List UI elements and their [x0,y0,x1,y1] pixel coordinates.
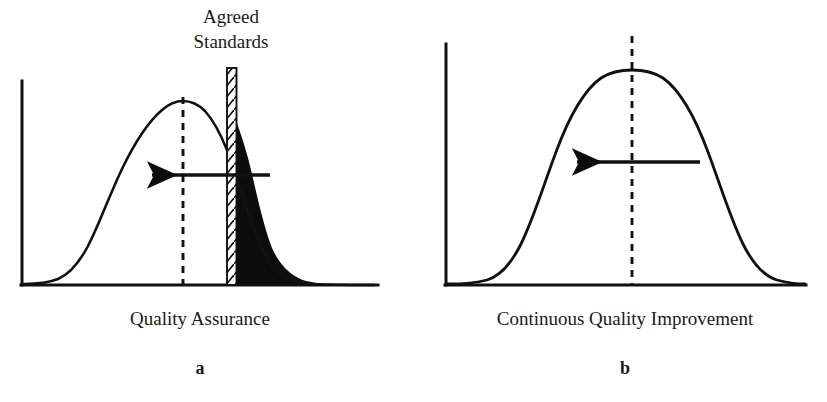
panel-a-letter: a [196,358,205,378]
quality-distribution-figure: Agreed Standards Quality Assurance a [0,0,827,402]
agreed-standards-label-line2: Standards [194,31,269,52]
panel-b-letter: b [620,358,630,378]
figure-background [0,0,827,402]
agreed-standards-label-line1: Agreed [203,6,259,27]
panel-b-caption: Continuous Quality Improvement [497,308,754,329]
figure-container: Agreed Standards Quality Assurance a [0,0,827,402]
panel-a-caption: Quality Assurance [130,308,270,329]
